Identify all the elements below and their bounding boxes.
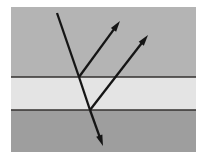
ray-diagram <box>0 0 205 159</box>
figure-canvas <box>0 0 205 159</box>
layer-lower-medium <box>11 110 196 152</box>
